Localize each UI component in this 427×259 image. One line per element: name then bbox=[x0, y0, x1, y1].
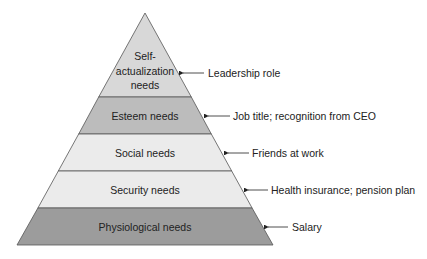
example-label: Leadership role bbox=[208, 67, 281, 79]
level-label: Social needs bbox=[115, 147, 175, 159]
example-label: Friends at work bbox=[252, 147, 325, 159]
level-label: needs bbox=[131, 79, 160, 91]
example-label: Job title; recognition from CEO bbox=[233, 110, 376, 122]
level-label: Security needs bbox=[110, 184, 179, 196]
level-label: actualization bbox=[116, 65, 175, 77]
pyramid-diagram: Self- actualization needs Esteem needs S… bbox=[0, 0, 427, 259]
level-label: Physiological needs bbox=[99, 221, 192, 233]
level-label: Self- bbox=[134, 50, 156, 62]
example-label: Health insurance; pension plan bbox=[271, 184, 415, 196]
level-label: Esteem needs bbox=[111, 110, 178, 122]
example-label: Salary bbox=[292, 221, 323, 233]
